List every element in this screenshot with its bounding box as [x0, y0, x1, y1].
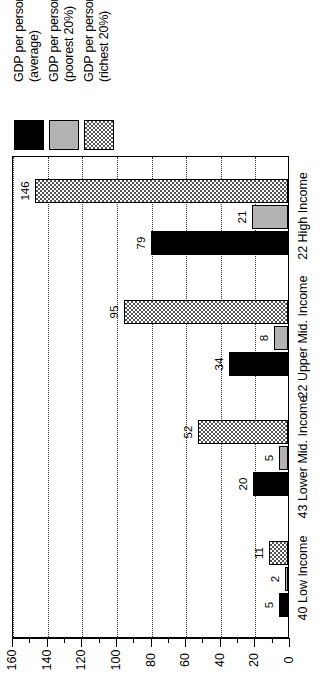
value-axis: 020406080100120140160 — [12, 638, 289, 650]
legend-label-average-line1: GDP per person — [12, 0, 27, 82]
solid-gray-swatch-icon — [49, 120, 79, 150]
bar-1-2 — [198, 420, 288, 444]
bar-value-label: 146 — [17, 171, 33, 211]
solid-black-swatch-icon — [14, 120, 44, 150]
bar-chart: 521120552348957921146 020406080100120140… — [0, 152, 336, 685]
axis-tick-10 — [272, 638, 273, 643]
axis-tick-150 — [29, 638, 30, 643]
category-band: 34895 — [13, 278, 288, 399]
legend-label-poorest-line2: (poorest 20%) — [62, 0, 77, 82]
bar-0-1 — [285, 567, 288, 591]
axis-tick-50 — [202, 638, 203, 643]
legend-label-poorest-line1: GDP per person — [47, 0, 62, 82]
bar-value-label: 11 — [251, 533, 267, 573]
bar-value-label: 8 — [256, 318, 272, 358]
category-band: 7921146 — [13, 157, 288, 278]
bar-2-1 — [274, 326, 288, 350]
axis-tick-label: 100 — [108, 640, 124, 680]
axis-tick-label: 60 — [177, 640, 193, 680]
bar-value-label: 21 — [234, 197, 250, 237]
legend-label-average: GDP per person (average) — [12, 0, 46, 82]
axis-tick-90 — [133, 638, 134, 643]
legend-label-richest-line2: (richest 20%) — [97, 0, 112, 82]
bar-1-1 — [279, 446, 288, 470]
legend-entry-average: GDP per person (average) — [12, 0, 48, 150]
category-label: 22 High Income — [294, 141, 312, 291]
axis-tick-label: 40 — [212, 640, 228, 680]
bar-value-label: 2 — [267, 559, 283, 599]
axis-tick-label: 80 — [143, 640, 159, 680]
axis-tick-130 — [64, 638, 65, 643]
axis-tick-110 — [99, 638, 100, 643]
bar-value-label: 5 — [261, 438, 277, 478]
category-band: 5211 — [13, 519, 288, 640]
axis-tick-label: 160 — [4, 640, 20, 680]
category-band: 20552 — [13, 398, 288, 519]
bar-3-2 — [35, 179, 288, 203]
plot-area: 521120552348957921146 — [12, 156, 289, 638]
bar-value-label: 95 — [106, 292, 122, 332]
axis-tick-label: 120 — [73, 640, 89, 680]
axis-tick-70 — [168, 638, 169, 643]
bar-value-label: 34 — [211, 344, 227, 384]
bar-value-label: 79 — [133, 223, 149, 263]
legend-entry-richest: GDP per person (richest 20%) — [82, 0, 118, 150]
legend-label-average-line2: (average) — [27, 0, 42, 82]
legend-label-poorest: GDP per person (poorest 20%) — [47, 0, 81, 82]
axis-tick-label: 140 — [39, 640, 55, 680]
axis-tick-30 — [237, 638, 238, 643]
bar-3-1 — [252, 205, 288, 229]
bar-value-label: 52 — [180, 412, 196, 452]
bar-0-2 — [269, 541, 288, 565]
legend-label-richest: GDP per person (richest 20%) — [82, 0, 116, 82]
bar-2-2 — [124, 300, 288, 324]
axis-tick-label: 20 — [246, 640, 262, 680]
legend-label-richest-line1: GDP per person — [82, 0, 97, 82]
chart-legend: GDP per person (average) GDP per person … — [0, 0, 336, 150]
bar-value-label: 20 — [235, 464, 251, 504]
legend-entry-poorest: GDP per person (poorest 20%) — [47, 0, 83, 150]
bar-3-0 — [151, 231, 288, 255]
checkered-swatch-icon — [84, 120, 114, 150]
